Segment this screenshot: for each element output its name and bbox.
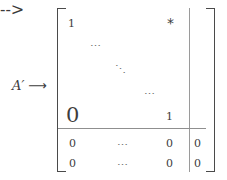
matrix-dots-upper-row: ⋯ xyxy=(90,41,103,52)
matrix-entry-row7-left-zero: 0 xyxy=(69,158,76,169)
matrix-entry-top-left-one: 1 xyxy=(68,18,75,29)
right-arrow-icon: ⟶ xyxy=(28,79,46,92)
matrix-dots-row7: ⋯ xyxy=(117,160,130,171)
matrix-entry-asterisk: * xyxy=(167,16,174,30)
matrix-figure: --> A′ ⟶ 1 * ⋯ ⋱ ⋯ 0 1 0 ⋯ 0 0 0 ⋯ 0 0 xyxy=(0,0,227,180)
matrix-entry-row6-left-zero: 0 xyxy=(69,138,76,149)
matrix-entry-row7-right-zero: 0 xyxy=(166,158,173,169)
matrix-right-bracket xyxy=(206,8,215,172)
matrix-entry-diagonal-last-one: 1 xyxy=(166,111,173,122)
matrix-entry-row7-augmented-zero: 0 xyxy=(194,158,201,169)
matrix-label-symbol: A′ xyxy=(12,79,24,92)
matrix-entry-zero-block-lower-left: 0 xyxy=(66,105,79,126)
matrix-dots-lower-row: ⋯ xyxy=(144,89,157,100)
matrix-horizontal-partition-rule xyxy=(58,128,206,129)
matrix-vertical-partition-rule xyxy=(189,8,190,172)
matrix-label: A′ ⟶ xyxy=(12,79,46,92)
matrix-left-bracket xyxy=(57,8,66,172)
matrix-entry-row6-right-zero: 0 xyxy=(166,138,173,149)
matrix-dots-diagonal: ⋱ xyxy=(115,64,126,75)
matrix-dots-row6: ⋯ xyxy=(117,140,130,151)
matrix-entry-row6-augmented-zero: 0 xyxy=(194,138,201,149)
